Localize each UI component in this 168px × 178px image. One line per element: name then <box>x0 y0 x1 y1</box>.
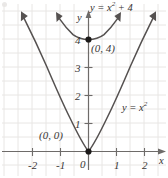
y-tick-label-2: 2 <box>75 91 81 102</box>
x-tick-label--1: -1 <box>56 160 65 171</box>
y-tick-label-4: 4 <box>75 35 81 46</box>
point-marker-0-0 <box>85 148 91 154</box>
curve-label-upper: y = x2 + 4 <box>90 1 133 13</box>
x-axis-arrowhead <box>158 149 166 155</box>
parabola-figure: y = x2 + 4 y = x2 y x (0, 4) (0, 0) -2 -… <box>0 0 168 178</box>
curve-label-lower: y = x2 <box>122 101 147 113</box>
point-label-0-4: (0, 4) <box>91 43 115 54</box>
y-tick-label-3: 3 <box>75 63 81 74</box>
curve-label-upper-base: y = x <box>90 2 112 13</box>
grid-vertical <box>4 4 158 176</box>
x-tick-label-2: 2 <box>142 160 148 171</box>
curve-label-lower-base: y = x <box>122 102 144 113</box>
x-tick-label-1: 1 <box>114 160 120 171</box>
y-tick-label-1: 1 <box>75 119 81 130</box>
point-label-0-0: (0, 0) <box>39 130 63 141</box>
curve-label-upper-tail: + 4 <box>115 2 133 13</box>
x-axis-name: x <box>159 156 164 167</box>
y-axis-name: y <box>77 13 82 24</box>
plot-canvas <box>0 0 168 178</box>
origin-label: 0 <box>80 159 86 170</box>
grid-horizontal <box>2 11 166 165</box>
curve-label-lower-exponent: 2 <box>144 100 148 108</box>
x-tick-label--2: -2 <box>28 160 37 171</box>
